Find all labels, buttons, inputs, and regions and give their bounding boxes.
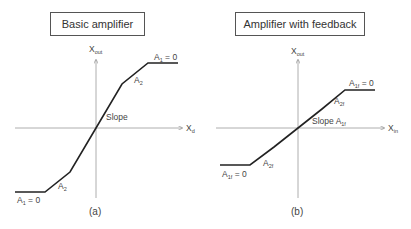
panel-a-transfer-curve bbox=[15, 63, 178, 192]
panel-a-y-axis-label: Xout bbox=[89, 44, 103, 55]
panel-b-lower-segment-label: A2f bbox=[263, 158, 274, 169]
panel-b-slope-label: Slope A1f bbox=[312, 116, 346, 127]
transfer-characteristic-diagram: Xout Xd A1 = 0 A2 Slope A2 A1 = 0 (a) Xo… bbox=[0, 0, 411, 229]
panel-a-caption: (a) bbox=[89, 206, 101, 217]
panel-b-caption: (b) bbox=[291, 206, 303, 217]
panel-b-lower-saturation-label: A1f = 0 bbox=[222, 169, 247, 180]
panel-a-lower-saturation-label: A1 = 0 bbox=[17, 195, 40, 206]
panel-b: Xout Xin A1f = 0 A2f Slope A1f A2f A1f =… bbox=[216, 46, 398, 217]
panel-b-transfer-curve bbox=[220, 90, 375, 165]
panel-a: Xout Xd A1 = 0 A2 Slope A2 A1 = 0 (a) bbox=[15, 44, 195, 217]
panel-a-lower-segment-label: A2 bbox=[58, 181, 67, 192]
panel-a-upper-saturation-label: A1 = 0 bbox=[154, 52, 177, 63]
panel-a-upper-segment-label: A2 bbox=[134, 75, 143, 86]
panel-b-x-axis-label: Xin bbox=[388, 123, 398, 134]
panel-a-slope-label: Slope bbox=[106, 112, 128, 122]
panel-b-upper-saturation-label: A1f = 0 bbox=[349, 78, 374, 89]
panel-b-y-axis-label: Xout bbox=[291, 46, 305, 57]
panel-b-upper-segment-label: A2f bbox=[334, 96, 345, 107]
panel-a-x-axis-label: Xd bbox=[186, 123, 195, 134]
